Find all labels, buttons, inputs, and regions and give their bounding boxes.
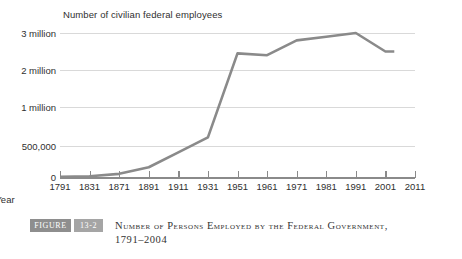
x-axis-tick [178,171,179,178]
caption-line-1: Number of Persons Employed by the Federa… [115,220,388,231]
x-axis-tick-label: 1981 [316,181,337,192]
y-axis-tick-label: 2 million [21,65,56,76]
y-axis-labels: 3 million2 million1 million500,0000 [0,28,56,178]
x-axis-tick-label: 1971 [286,181,307,192]
x-axis-tick-label: 1931 [197,181,218,192]
series-polyline [60,33,394,177]
figure-badge: FIGURE [30,219,71,232]
y-axis-tick-label: 1 million [21,102,56,113]
x-axis-tick-label: 1891 [138,181,159,192]
chart-figure: Number of civilian federal employees 3 m… [0,0,462,212]
x-axis-tick [415,171,416,178]
x-axis-tick [90,171,91,178]
figure-caption-text: Number of Persons Employed by the Federa… [115,219,388,246]
x-axis-title: Year [0,194,462,205]
x-axis-title-label: Year [0,194,15,205]
x-axis-tick-label: 2011 [405,181,425,192]
chart-title: Number of civilian federal employees [63,9,222,20]
x-axis-tick [267,171,268,178]
x-axis-tick [385,171,386,178]
x-axis-tick-label: 1951 [227,181,248,192]
x-axis-tick-label: 1791 [49,181,70,192]
plot-area [60,28,415,178]
x-axis-tick [326,171,327,178]
x-axis-tick [208,171,209,178]
figure-caption: FIGURE 13-2 Number of Persons Employed b… [30,219,388,246]
y-axis-tick-label: 500,000 [22,141,56,152]
x-axis-tick-label: 1831 [79,181,100,192]
x-axis-tick [238,171,239,178]
x-axis-tick-label: 2001 [375,181,396,192]
x-axis-tick-label: 1871 [109,181,130,192]
x-axis-tick-label: 1961 [257,181,278,192]
figure-number-badge: 13-2 [74,219,103,232]
data-series-line [60,28,415,178]
x-axis-tick [149,171,150,178]
x-axis-tick [60,171,61,178]
x-axis-tick-label: 1911 [168,181,188,192]
x-axis-tick [119,171,120,178]
x-axis-tick [356,171,357,178]
x-axis-tick-label: 1991 [345,181,366,192]
caption-line-2: 1791–2004 [115,233,388,247]
x-axis-tick [297,171,298,178]
y-axis-tick-label: 3 million [21,28,56,39]
